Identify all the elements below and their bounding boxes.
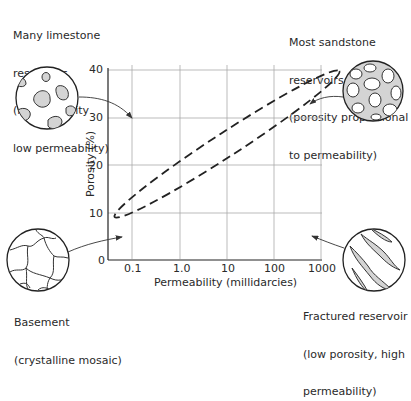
limestone-texture-icon — [16, 67, 78, 129]
sandstone-texture-icon — [343, 61, 403, 121]
gridlines — [108, 65, 322, 259]
fractured-arrow — [312, 236, 344, 248]
axes — [108, 68, 322, 260]
fractured-texture-icon — [343, 228, 405, 292]
basement-arrow — [68, 237, 122, 252]
basement-texture-icon — [7, 229, 69, 292]
limestone-arrow — [79, 97, 132, 118]
